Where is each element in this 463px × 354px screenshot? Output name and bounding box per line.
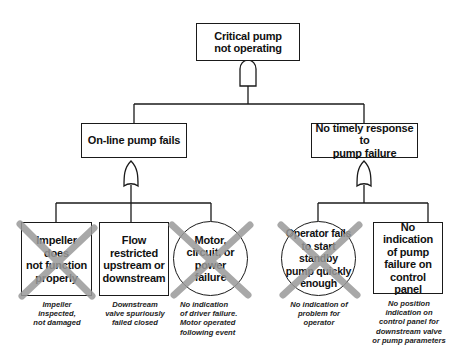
note-flow-restricted: Downstream valve spuriously failed close… [92, 300, 178, 328]
intermediate-event-no-response: No timely response to pump failure [311, 123, 418, 158]
basic-event-no-indication: No indication of pump failure on control… [373, 222, 443, 294]
top-event-label: Critical pump not operating [212, 30, 284, 55]
basic-event-label: Flow restricted upstream or downstream [101, 234, 168, 284]
note-impeller: Impeller inspected, not damaged [14, 300, 100, 328]
basic-event-operator: Operator fails to start standby pump qui… [281, 221, 356, 296]
basic-event-flow-restricted: Flow restricted upstream or downstream [99, 222, 169, 296]
basic-event-motor: Motor, circuit, or power failure [173, 221, 248, 296]
basic-event-impeller: Impeller does not function properly [21, 222, 92, 296]
note-motor: No indication of driver failure. Motor o… [180, 300, 264, 337]
basic-event-label: Operator fails to start standby pump qui… [282, 227, 355, 290]
note-operator: No indication of problem for operator [279, 300, 359, 328]
basic-event-label: Motor, circuit, or power failure [185, 234, 237, 284]
top-event-box: Critical pump not operating [196, 23, 300, 61]
or-gate-right-icon [357, 161, 371, 186]
basic-event-label: No indication of pump failure on control… [374, 221, 442, 296]
or-gate-left-icon [124, 161, 138, 186]
and-gate-icon [240, 60, 256, 86]
fault-tree-diagram: Critical pump not operating On-line pump… [0, 0, 463, 354]
intermediate-event-online-pump: On-line pump fails [81, 123, 187, 158]
note-no-indication: No position indication on control panel … [366, 299, 452, 345]
intermediate-label: On-line pump fails [86, 134, 182, 147]
intermediate-label: No timely response to pump failure [312, 122, 417, 160]
basic-event-label: Impeller does not function properly [22, 234, 91, 284]
